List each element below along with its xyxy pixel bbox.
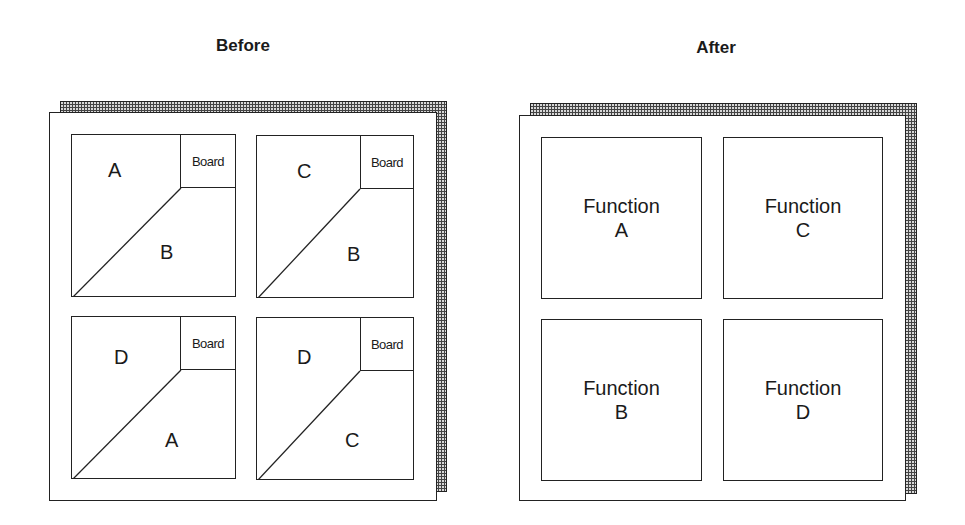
function-word: Function — [724, 194, 882, 218]
lower-function-label: A — [165, 429, 178, 452]
lower-function-label: B — [160, 241, 173, 264]
function-letter: A — [542, 218, 701, 242]
function-word: Function — [542, 376, 701, 400]
before-board-4: Board D C — [256, 317, 414, 480]
function-word: Function — [724, 376, 882, 400]
lower-function-label: B — [347, 243, 360, 266]
after-board-function-c: Function C — [723, 137, 883, 299]
function-word: Function — [542, 194, 701, 218]
function-label: Function C — [724, 194, 882, 242]
function-letter: D — [724, 400, 882, 424]
board-box: Board — [360, 135, 414, 189]
upper-function-label: C — [297, 160, 311, 183]
lower-function-label: C — [345, 429, 359, 452]
board-box: Board — [360, 317, 414, 371]
after-title: After — [656, 38, 776, 58]
board-box: Board — [180, 316, 236, 370]
after-board-function-a: Function A — [541, 137, 702, 299]
after-board-function-b: Function B — [541, 319, 702, 481]
function-label: Function A — [542, 194, 701, 242]
function-letter: B — [542, 400, 701, 424]
before-board-3: Board D A — [71, 316, 236, 479]
upper-function-label: D — [114, 346, 128, 369]
before-title: Before — [183, 36, 303, 56]
function-label: Function D — [724, 376, 882, 424]
after-board-function-d: Function D — [723, 319, 883, 481]
upper-function-label: D — [297, 346, 311, 369]
before-board-2: Board C B — [256, 135, 414, 298]
function-label: Function B — [542, 376, 701, 424]
upper-function-label: A — [108, 159, 121, 182]
function-letter: C — [724, 218, 882, 242]
board-box: Board — [180, 134, 236, 188]
before-board-1: Board A B — [71, 134, 236, 297]
